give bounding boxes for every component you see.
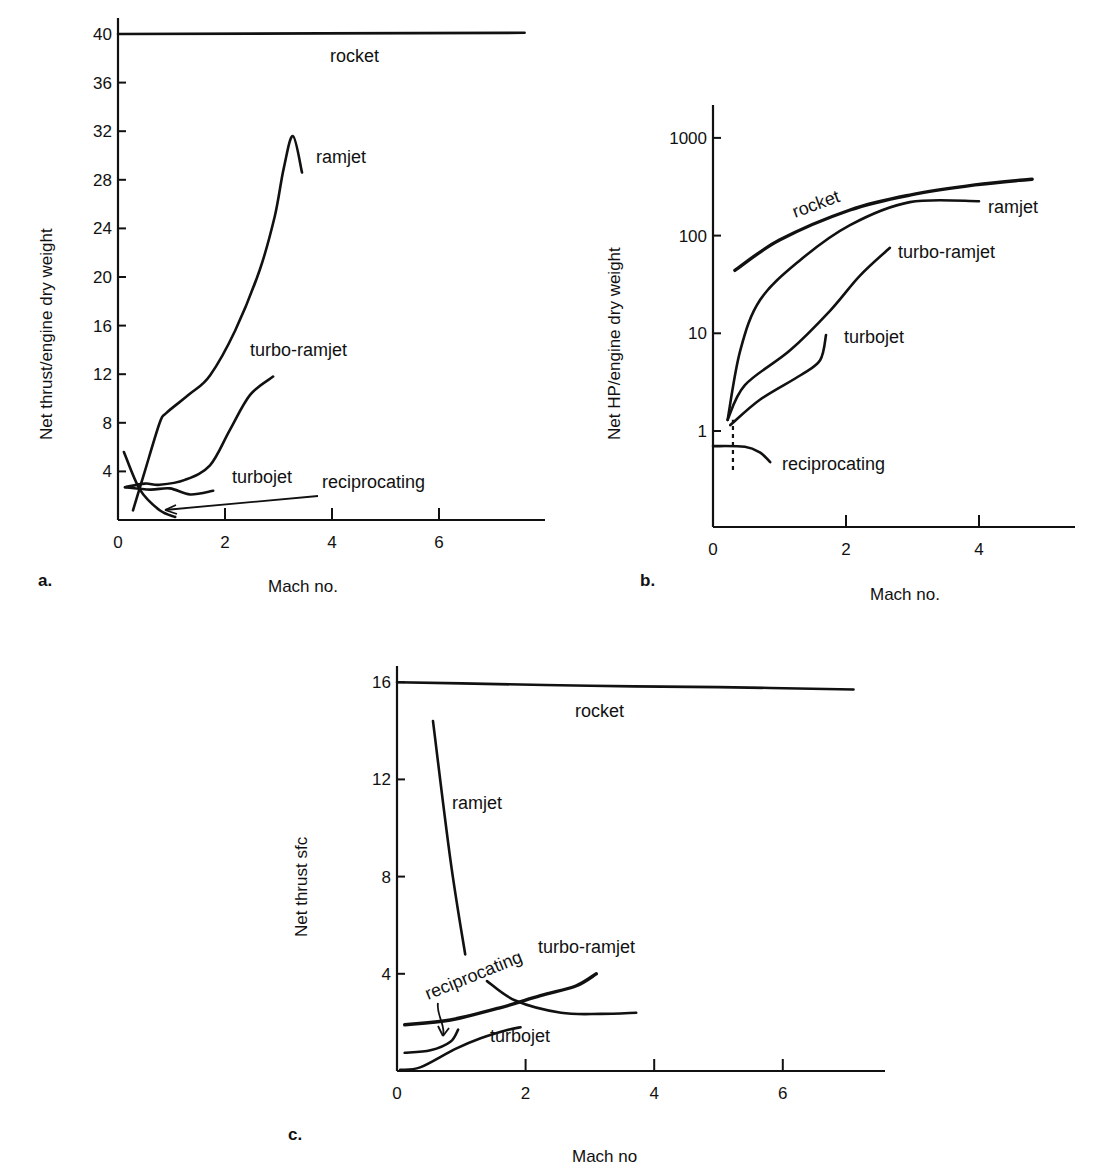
- chart-a-label-ramjet: ramjet: [316, 147, 366, 167]
- chart-c-ytick-label: 8: [382, 868, 391, 887]
- chart-b-ytick-label: 100: [679, 227, 707, 246]
- chart-a-axes: 0246481216202428323640: [93, 18, 545, 552]
- chart-c-panel-label: c.: [288, 1125, 302, 1144]
- chart-a-ytick-label: 16: [93, 317, 112, 336]
- chart-b-label-turbo-ramjet: turbo-ramjet: [898, 242, 995, 262]
- chart-b-labels: rocket ramjet turbo-ramjet turbojet reci…: [605, 186, 1038, 604]
- chart-b-ytick-label: 10: [688, 324, 707, 343]
- chart-a-label-reciprocating: reciprocating: [322, 472, 425, 492]
- chart-c-axes: 0246481216: [372, 666, 885, 1103]
- chart-a-ytick-label: 8: [103, 414, 112, 433]
- chart-b-label-reciprocating: reciprocating: [782, 454, 885, 474]
- chart-c-xtick-label: 0: [392, 1084, 401, 1103]
- chart-c-label-turbojet: turbojet: [490, 1026, 550, 1046]
- chart-a-xtick-label: 2: [220, 533, 229, 552]
- chart-b-ytick-label: 1000: [669, 129, 707, 148]
- chart-b-xlabel: Mach no.: [870, 585, 940, 604]
- chart-a-ytick-label: 12: [93, 365, 112, 384]
- chart-b-panel-label: b.: [640, 571, 655, 590]
- chart-a-annotation-arrow: [165, 496, 318, 510]
- chart-c-ytick-label: 4: [382, 965, 391, 984]
- chart-b-xtick-label: 4: [974, 540, 983, 559]
- chart-a-ytick-label: 40: [93, 25, 112, 44]
- chart-a-xlabel: Mach no.: [268, 577, 338, 596]
- chart-a: 0246481216202428323640 rocket ramjet tur…: [37, 18, 545, 596]
- chart-c-series-reciprocating: [405, 1030, 458, 1053]
- chart-c-series-ramjet-high: [487, 981, 636, 1014]
- chart-a-ytick-label: 36: [93, 74, 112, 93]
- chart-c-series-rocket: [397, 682, 854, 689]
- chart-c-xlabel: Mach no: [572, 1147, 637, 1166]
- chart-b-ytick-label: 1: [698, 422, 707, 441]
- figure: 0246481216202428323640 rocket ramjet tur…: [0, 0, 1097, 1176]
- chart-a-ytick-label: 24: [93, 219, 112, 238]
- chart-a-label-turbo-ramjet: turbo-ramjet: [250, 340, 347, 360]
- chart-a-series-rocket: [118, 33, 525, 34]
- chart-a-panel-label: a.: [38, 571, 52, 590]
- chart-c-curves: [397, 682, 854, 1070]
- chart-b-series-reciprocating: [713, 446, 770, 462]
- chart-a-ylabel: Net thrust/engine dry weight: [37, 228, 56, 440]
- chart-b-label-turbojet: turbojet: [844, 327, 904, 347]
- chart-b-series-turbojet: [730, 335, 826, 425]
- chart-b: 0241101001000 rocket ramjet turbo-ramjet…: [605, 105, 1075, 604]
- chart-a-ytick-label: 20: [93, 268, 112, 287]
- chart-c-series-ramjet: [433, 721, 465, 954]
- chart-a-ytick-label: 4: [103, 462, 112, 481]
- chart-a-xtick-label: 4: [327, 533, 336, 552]
- chart-a-label-turbojet: turbojet: [232, 467, 292, 487]
- chart-c-ylabel: Net thrust sfc: [292, 836, 311, 937]
- chart-c-label-ramjet: ramjet: [452, 793, 502, 813]
- chart-c-xtick-label: 6: [778, 1084, 787, 1103]
- chart-c-xtick-label: 4: [649, 1084, 658, 1103]
- chart-c-label-turbo-ramjet: turbo-ramjet: [538, 937, 635, 957]
- chart-b-ylabel: Net HP/engine dry weight: [605, 247, 624, 440]
- chart-c-label-reciprocating: reciprocating: [422, 947, 525, 1004]
- chart-c-label-rocket: rocket: [575, 701, 624, 721]
- chart-c-ytick-label: 16: [372, 673, 391, 692]
- chart-b-xtick-label: 2: [841, 540, 850, 559]
- chart-a-xtick-label: 6: [434, 533, 443, 552]
- chart-b-label-ramjet: ramjet: [988, 197, 1038, 217]
- chart-c-ytick-label: 12: [372, 770, 391, 789]
- chart-b-series-ramjet: [728, 200, 979, 420]
- chart-a-curves: [118, 33, 525, 517]
- chart-a-xtick-label: 0: [113, 533, 122, 552]
- chart-c: 0246481216 rocket ramjet turbo-ramjet tu…: [288, 666, 885, 1166]
- chart-b-xtick-label: 0: [708, 540, 717, 559]
- chart-a-ytick-label: 32: [93, 122, 112, 141]
- chart-a-label-rocket: rocket: [330, 46, 379, 66]
- chart-a-ytick-label: 28: [93, 171, 112, 190]
- chart-b-curves: [713, 179, 1032, 470]
- chart-c-xtick-label: 2: [521, 1084, 530, 1103]
